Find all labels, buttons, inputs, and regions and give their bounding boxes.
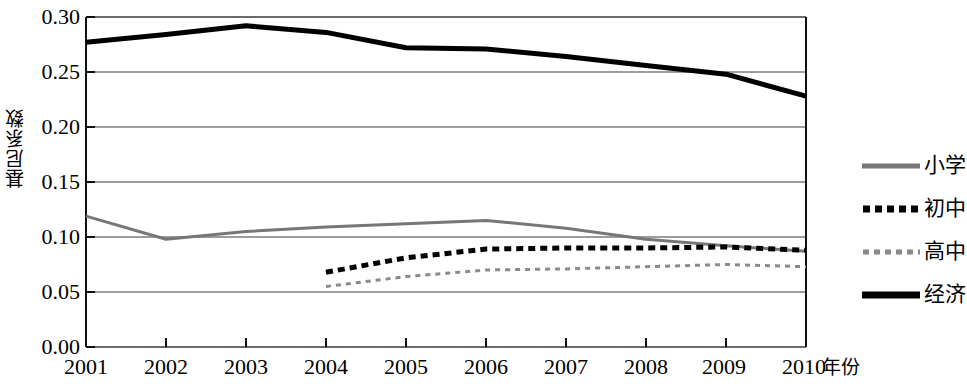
legend-swatch-icon — [862, 205, 920, 213]
x-tick-label: 2003 — [206, 356, 286, 378]
legend-item-economy: 经济 — [862, 279, 967, 322]
legend-label: 初中 — [924, 195, 966, 221]
x-tick-label: 2008 — [606, 356, 686, 378]
y-tick-label: 0.15 — [16, 171, 80, 193]
y-tick-label: 0.20 — [16, 116, 80, 138]
x-tick-label: 2002 — [126, 356, 206, 378]
x-axis-title: 年份 — [822, 352, 860, 379]
line-chart: 基尼系数 0.30 0.25 0.20 0.15 0.10 0.05 0.00 … — [0, 0, 967, 388]
legend-item-senior-high: 高中 — [862, 236, 967, 279]
y-axis-tick-labels: 0.30 0.25 0.20 0.15 0.10 0.05 0.00 — [0, 0, 80, 388]
x-tick-label: 2001 — [46, 356, 126, 378]
x-tick-label: 2007 — [526, 356, 606, 378]
legend-swatch-icon — [862, 162, 920, 170]
legend-item-junior-high: 初中 — [862, 193, 967, 236]
x-tick-label: 2005 — [366, 356, 446, 378]
y-tick-label: 0.05 — [16, 281, 80, 303]
legend-label: 经济 — [924, 281, 966, 307]
series-line-高中 — [326, 265, 806, 287]
y-tick-label: 0.25 — [16, 61, 80, 83]
legend-swatch-icon — [862, 248, 920, 256]
legend-swatch-icon — [862, 291, 920, 299]
legend-label: 高中 — [924, 238, 966, 264]
x-tick-label: 2006 — [446, 356, 526, 378]
chart-legend: 小学 初中 高中 经济 — [862, 150, 967, 322]
plot-area — [0, 0, 967, 388]
series-line-经济 — [86, 26, 806, 96]
x-tick-label: 2009 — [684, 356, 764, 378]
legend-item-primary-school: 小学 — [862, 150, 967, 193]
y-tick-label: 0.30 — [16, 6, 80, 28]
legend-label: 小学 — [924, 152, 966, 178]
x-tick-label: 2004 — [286, 356, 366, 378]
y-tick-label: 0.10 — [16, 226, 80, 248]
